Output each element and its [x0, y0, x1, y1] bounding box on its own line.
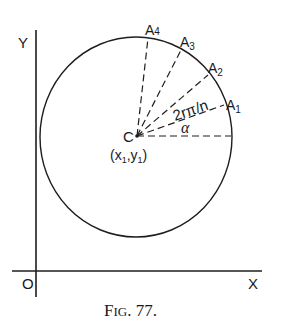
label-a1: A1 [226, 97, 241, 115]
label-a2: A2 [208, 60, 223, 78]
radius-a4 [137, 38, 148, 136]
step-angle-label: 2rπ/n [170, 96, 210, 124]
figure-caption: FIG. 77. [104, 301, 157, 320]
y-axis-label: Y [18, 34, 28, 51]
label-a3: A3 [180, 34, 195, 52]
x-axis-label: X [248, 275, 258, 292]
center-label: C [123, 128, 134, 145]
origin-label: O [22, 275, 34, 292]
label-a4: A4 [145, 22, 160, 38]
center-coordinates: (x1,y1) [110, 147, 147, 165]
figure-77-diagram: Y X O A1 A2 A3 A4 α 2rπ/n C (x1,y1) FIG.… [0, 0, 281, 325]
